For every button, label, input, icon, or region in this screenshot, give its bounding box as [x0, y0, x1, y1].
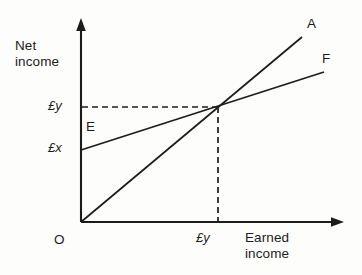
x-axis-title: Earnedincome — [245, 230, 289, 261]
line-f-label: F — [322, 51, 330, 67]
y-axis-title-line1: Net — [15, 38, 36, 53]
x-axis-tick-label: £y — [196, 231, 210, 246]
y-axis-title-line2: income — [15, 54, 59, 69]
y-axis-title: Netincome — [15, 38, 59, 69]
y-axis-tick-label-upper: £y — [48, 99, 62, 114]
line-a-label: A — [307, 16, 316, 32]
y-axis-tick-label-lower: £x — [48, 141, 62, 156]
x-axis-title-line1: Earned — [245, 230, 289, 245]
line-e-label: E — [86, 119, 95, 135]
origin-label: O — [54, 232, 65, 248]
x-axis-title-line2: income — [245, 246, 289, 261]
